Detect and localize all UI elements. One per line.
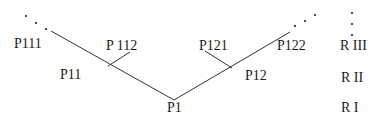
ellipsis-dot-left-1 <box>25 15 27 17</box>
edge-p12-p121 <box>205 51 232 68</box>
tree-diagram <box>0 0 375 121</box>
ellipsis-dot-vert-3 <box>351 34 353 36</box>
ellipsis-dot-left-3 <box>45 28 47 30</box>
edge-p11-p112 <box>108 52 130 66</box>
ellipsis-dot-vert-2 <box>351 23 353 25</box>
ellipsis-dot-right-3 <box>314 14 316 16</box>
ellipsis-dot-left-2 <box>35 22 37 24</box>
node-label-p112: P 112 <box>106 39 137 53</box>
node-label-p1: P1 <box>167 101 182 115</box>
node-label-p11: P11 <box>60 68 81 82</box>
level-label-r2: R II <box>341 71 363 85</box>
node-label-p121: P121 <box>199 39 228 53</box>
node-label-p122: P122 <box>277 39 306 53</box>
edge-p1-p12 <box>174 32 290 100</box>
node-label-p12: P12 <box>245 69 267 83</box>
ellipsis-dot-right-2 <box>304 20 306 22</box>
node-label-p111: P111 <box>14 37 42 51</box>
ellipsis-dot-right-1 <box>294 25 296 27</box>
level-label-r1: R I <box>341 101 359 115</box>
level-label-r3: R III <box>340 39 367 53</box>
ellipsis-dot-vert-1 <box>351 12 353 14</box>
